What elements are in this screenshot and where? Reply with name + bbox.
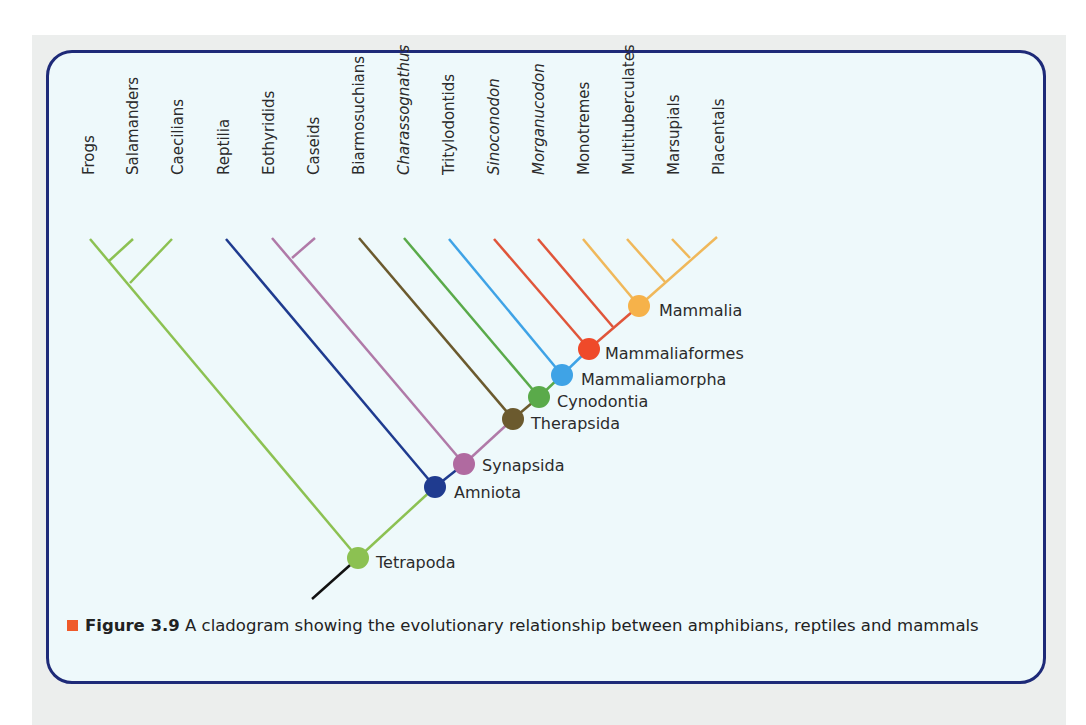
tip-morganucodon: Morganucodon — [530, 63, 548, 175]
tip-caecilians: Caecilians — [169, 99, 187, 175]
tip-frogs: Frogs — [80, 135, 98, 175]
label-mammalia: Mammalia — [659, 301, 742, 320]
amphibian-branches — [90, 239, 435, 558]
label-amniota: Amniota — [454, 483, 521, 502]
tip-charassognathus: Charassognathus — [395, 45, 413, 175]
caption-text: A cladogram showing the evolutionary rel… — [180, 616, 979, 635]
label-synapsida: Synapsida — [482, 456, 564, 475]
tip-eothyridids: Eothyridids — [260, 91, 278, 175]
tip-sinoconodon: Sinoconodon — [485, 78, 503, 175]
node-therapsida — [502, 408, 524, 430]
tip-monotremes: Monotremes — [575, 81, 593, 175]
tip-biarmosuchians: Biarmosuchians — [350, 56, 368, 175]
mammal-branches — [583, 237, 717, 306]
node-tetrapoda — [347, 547, 369, 569]
label-mammaliaformes: Mammaliaformes — [605, 344, 744, 363]
mammaliaform-branches — [494, 239, 639, 349]
caption-marker-icon — [67, 620, 78, 631]
label-mammaliamorpha: Mammaliamorpha — [581, 370, 726, 389]
node-amniota — [424, 476, 446, 498]
tip-salamanders: Salamanders — [124, 77, 142, 175]
node-synapsida — [453, 453, 475, 475]
node-mammaliaformes — [578, 338, 600, 360]
figure-number: Figure 3.9 — [85, 616, 180, 635]
tip-caseids: Caseids — [305, 117, 323, 175]
label-therapsida: Therapsida — [530, 414, 620, 433]
tip-placentals: Placentals — [710, 98, 728, 175]
tip-reptilia: Reptilia — [215, 119, 233, 175]
reptilia-branch — [226, 239, 435, 487]
label-cynodontia: Cynodontia — [557, 392, 648, 411]
mammaliamorph-branches — [449, 239, 589, 375]
node-mammaliamorpha — [551, 364, 573, 386]
tip-tritylodontids: Tritylodontids — [440, 74, 458, 176]
figure-caption: Figure 3.9 A cladogram showing the evolu… — [67, 612, 1027, 640]
therapsid-branches — [359, 238, 539, 419]
node-mammalia — [628, 295, 650, 317]
tip-marsupials: Marsupials — [665, 94, 683, 175]
node-cynodontia — [528, 386, 550, 408]
tip-multituberculates: Multituberculates — [620, 44, 638, 175]
label-tetrapoda: Tetrapoda — [375, 553, 455, 572]
